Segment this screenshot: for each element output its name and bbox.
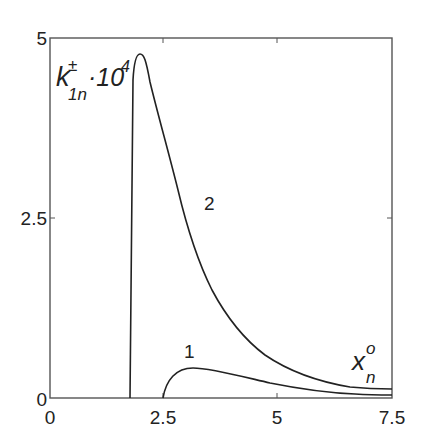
svg-text:n: n <box>366 368 375 387</box>
svg-text:±: ± <box>68 56 77 75</box>
y-tick-label: 0 <box>36 389 47 410</box>
x-tick-label: 2.5 <box>150 407 176 428</box>
plot-frame <box>50 38 392 398</box>
y-tick-label: 5 <box>36 28 47 49</box>
svg-text:1n: 1n <box>68 85 87 104</box>
svg-text:4: 4 <box>121 58 130 75</box>
x-tick-label: 7.5 <box>379 407 405 428</box>
svg-text:o: o <box>366 339 375 358</box>
y-tick-label: 2.5 <box>21 208 47 229</box>
curve-1-label: 1 <box>184 341 195 362</box>
y-axis-title: k ± 1n ·10 4 <box>56 56 130 104</box>
chart-canvas: 0 2.5 5 7.5 0 2.5 5 2 1 k ± 1n ·10 4 x o… <box>0 0 423 446</box>
x-ticks <box>50 38 392 398</box>
curve-2-label: 2 <box>204 193 215 214</box>
x-axis-title: x o n <box>350 339 375 387</box>
svg-text:x: x <box>350 346 366 376</box>
svg-text:·10: ·10 <box>88 63 124 91</box>
x-tick-label: 5 <box>272 407 283 428</box>
x-tick-label: 0 <box>45 407 56 428</box>
